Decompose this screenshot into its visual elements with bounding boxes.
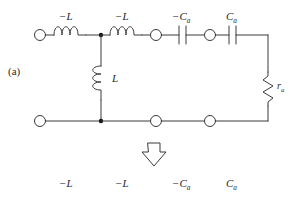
panel-label: (a) — [8, 66, 20, 77]
terminal-bottom-left — [35, 116, 46, 127]
terminal-bottom-mid-right — [205, 116, 216, 127]
label-bottom-capacitor-1-base: −C — [172, 177, 187, 189]
label-top-capacitor-2-sub: a — [233, 17, 237, 25]
label-shunt-inductor: L — [112, 73, 118, 84]
label-top-capacitor-1-base: −C — [172, 10, 187, 22]
label-top-capacitor-1-sub: a — [187, 17, 191, 25]
label-bottom-capacitor-1: −Ca — [172, 178, 190, 192]
terminal-top-mid-right — [205, 30, 216, 41]
down-arrow-icon — [142, 143, 166, 166]
terminal-top-mid-left — [151, 30, 162, 41]
label-top-capacitor-1: −Ca — [172, 11, 190, 25]
inductor-top-left — [54, 27, 86, 35]
circuit-figure: (a) −L −L −Ca Ca L ra −L −L −Ca Ca — [0, 0, 291, 199]
label-resistor: ra — [277, 81, 284, 94]
label-top-inductor-2: −L — [115, 11, 129, 22]
label-bottom-capacitor-1-sub: a — [187, 184, 191, 192]
inductor-top-right — [110, 27, 142, 35]
label-resistor-sub: a — [281, 86, 284, 93]
resistor-ra — [263, 72, 273, 106]
label-bottom-capacitor-2-sub: a — [233, 184, 237, 192]
label-top-capacitor-2: Ca — [226, 11, 237, 25]
inductor-shunt — [93, 66, 101, 100]
terminal-bottom-mid-left — [151, 116, 162, 127]
label-top-inductor-1: −L — [59, 11, 73, 22]
circuit-schematic — [0, 0, 291, 199]
label-bottom-inductor-2: −L — [115, 178, 129, 189]
label-bottom-capacitor-2: Ca — [226, 178, 237, 192]
label-bottom-inductor-1: −L — [59, 178, 73, 189]
terminal-top-left — [35, 30, 46, 41]
